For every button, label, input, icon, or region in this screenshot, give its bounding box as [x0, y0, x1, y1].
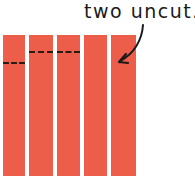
- curved-arrow-icon: [0, 0, 195, 176]
